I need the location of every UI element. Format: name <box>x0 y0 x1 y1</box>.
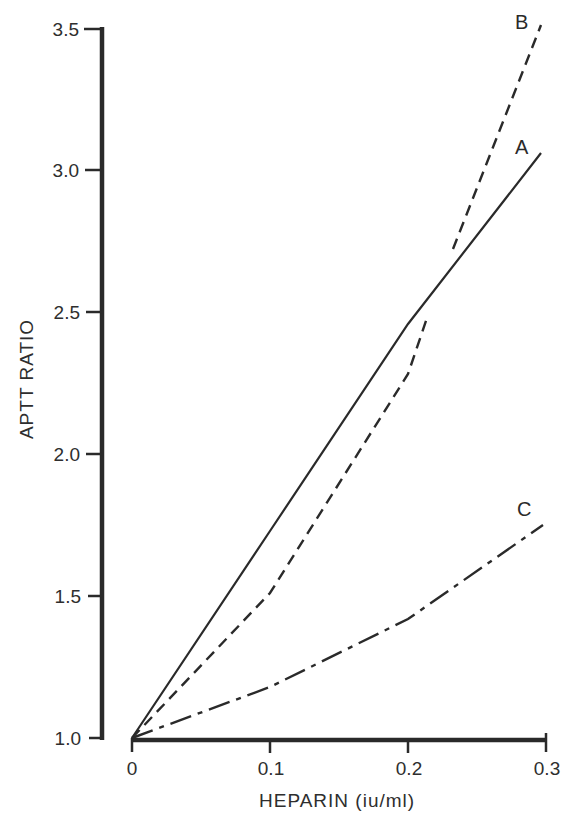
series-c-label: C <box>517 499 531 519</box>
y-ticks <box>84 29 102 738</box>
y-tick-label: 3.0 <box>29 161 79 180</box>
x-tick-label: 0.1 <box>246 759 296 778</box>
x-ticks <box>132 733 546 753</box>
series-a-label: A <box>515 137 528 157</box>
series-c-line <box>132 525 543 738</box>
series-b-line <box>132 315 428 738</box>
y-tick-label: 1.5 <box>31 587 81 606</box>
x-tick-label: 0.2 <box>384 759 434 778</box>
y-axis-title: APTT RATIO <box>16 319 38 439</box>
series-b-label: B <box>515 12 528 32</box>
x-axis-title: HEPARIN (iu/ml) <box>259 790 415 812</box>
x-tick-label: 0 <box>107 759 157 778</box>
y-tick-label: 3.5 <box>29 20 79 39</box>
aptt-heparin-chart: 3.5 3.0 2.5 2.0 1.5 1.0 0 0.1 0.2 0.3 AP… <box>0 0 575 824</box>
y-tick-label: 2.0 <box>30 445 80 464</box>
y-tick-label: 1.0 <box>31 729 81 748</box>
x-tick-label: 0.3 <box>522 759 572 778</box>
plot-area <box>0 0 575 824</box>
series-a-line <box>132 153 541 738</box>
